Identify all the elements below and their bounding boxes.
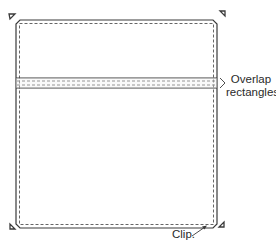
quilt-block-diagram bbox=[0, 0, 276, 249]
corner-marker-bottom-right-icon bbox=[219, 222, 224, 227]
clip-label: Clip. bbox=[172, 228, 195, 241]
corner-marker-bottom-left-icon bbox=[10, 224, 15, 229]
overlap-label-line1: Overlap bbox=[226, 73, 276, 86]
corner-marker-top-right-icon bbox=[220, 11, 225, 16]
overlap-label-line2: rectangles. bbox=[226, 86, 276, 99]
overlap-bracket-icon bbox=[220, 78, 225, 88]
corner-marker-top-left-icon bbox=[9, 14, 15, 19]
outer-square-outline bbox=[16, 20, 217, 228]
overlap-rectangles-label: Overlap rectangles. bbox=[226, 73, 276, 99]
overlap-band bbox=[16, 78, 217, 88]
